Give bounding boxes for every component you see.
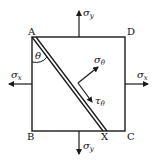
- vertex-a-label: A: [28, 27, 35, 37]
- vertex-d-label: D: [127, 27, 135, 37]
- oblique-plane-line: [32, 37, 103, 131]
- sigma-theta-label: σθ: [94, 55, 105, 67]
- vertex-x-label: X: [101, 132, 108, 142]
- stress-element-diagram: [0, 0, 159, 166]
- tau-theta-arrow: [78, 83, 92, 102]
- oblique-plane-line-2: [36, 37, 107, 131]
- vertex-c-label: C: [127, 132, 135, 142]
- sigma-theta-arrow: [78, 67, 98, 83]
- tau-theta-label: τθ: [95, 96, 105, 108]
- theta-label: θ: [35, 51, 41, 61]
- vertex-b-label: B: [27, 132, 34, 142]
- sigma-y-bottom-label: σy: [83, 141, 94, 153]
- sigma-x-left-label: σx: [11, 70, 22, 82]
- sigma-y-top-label: σy: [83, 8, 94, 20]
- sigma-x-right-label: σx: [137, 70, 148, 82]
